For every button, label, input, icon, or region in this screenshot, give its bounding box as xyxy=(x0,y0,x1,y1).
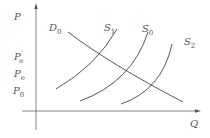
supply-curve-s0 xyxy=(80,32,148,101)
price-label-p0: P0 xyxy=(12,85,24,99)
supply-label-s2: S2 xyxy=(184,36,195,50)
price-label-pe: Pe xyxy=(13,68,25,82)
supply-label-s1: S1 xyxy=(104,22,115,36)
curves xyxy=(56,29,183,104)
price-label-pe-prime: P′e xyxy=(13,50,23,65)
supply-demand-diagram: P Q P′e Pe P0 D0 S1 S0 S2 xyxy=(0,0,210,138)
y-axis-arrow-icon xyxy=(34,3,37,9)
x-axis-label: Q xyxy=(190,118,198,129)
supply-curve-s2 xyxy=(121,44,172,104)
supply-label-s0: S0 xyxy=(142,23,153,37)
x-axis-arrow-icon xyxy=(195,109,201,112)
y-axis-label: P xyxy=(13,11,21,22)
demand-curve-d0 xyxy=(68,32,183,102)
demand-label-d0: D0 xyxy=(48,22,62,36)
